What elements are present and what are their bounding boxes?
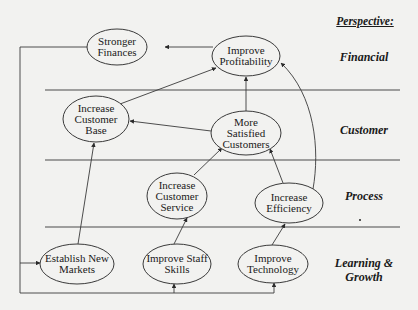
node-label-line: Profitability: [219, 56, 272, 67]
node-label-line: Skills: [146, 264, 207, 275]
node-label-line: Finances: [97, 47, 136, 58]
strategy-map-diagram: Stronger Finances Improve Profitability …: [0, 0, 418, 310]
perspective-customer-label: Customer: [340, 123, 388, 137]
node-improve-technology: Improve Technology: [247, 253, 299, 275]
perspective-process-label: Process: [345, 189, 383, 203]
node-stronger-finances: Stronger Finances: [97, 36, 136, 58]
perspective-financial-label: Financial: [340, 50, 389, 64]
node-label-line: Markets: [45, 264, 109, 275]
node-label-line: Technology: [247, 264, 299, 275]
connector-new-markets-to-customer-base: [78, 143, 94, 244]
node-label-line: Base: [75, 125, 118, 136]
perspective-header: Perspective:: [336, 14, 393, 28]
node-label-line: Service: [156, 202, 199, 213]
node-label-line: Customers: [222, 139, 269, 150]
node-increase-efficiency: Increase Efficiency: [266, 192, 312, 214]
node-increase-customer-service: Increase Customer Service: [156, 180, 199, 213]
perspective-growth-line: Growth: [335, 270, 393, 284]
connector-satisfied-to-customer-base: [130, 121, 211, 131]
perspective-learning-growth-label: Learning & Growth: [335, 256, 393, 284]
connector-efficiency-to-profitability: [281, 63, 316, 189]
node-increase-customer-base: Increase Customer Base: [75, 103, 118, 136]
connector-efficiency-to-satisfied: [270, 149, 283, 183]
node-improve-profitability: Improve Profitability: [219, 45, 272, 67]
node-establish-new-markets: Establish New Markets: [45, 253, 109, 275]
connector-service-to-satisfied: [194, 148, 222, 175]
node-improve-staff-skills: Improve Staff Skills: [146, 253, 207, 275]
node-label-line: Efficiency: [266, 203, 312, 214]
node-more-satisfied-customers: More Satisfied Customers: [222, 117, 269, 150]
node-shapes: [40, 29, 323, 284]
stray-dot: [359, 219, 361, 221]
connector-customer-base-to-profitability: [120, 68, 216, 104]
perspective-learning-line: Learning &: [335, 256, 393, 270]
connector-staff-skills-to-service: [174, 218, 187, 244]
